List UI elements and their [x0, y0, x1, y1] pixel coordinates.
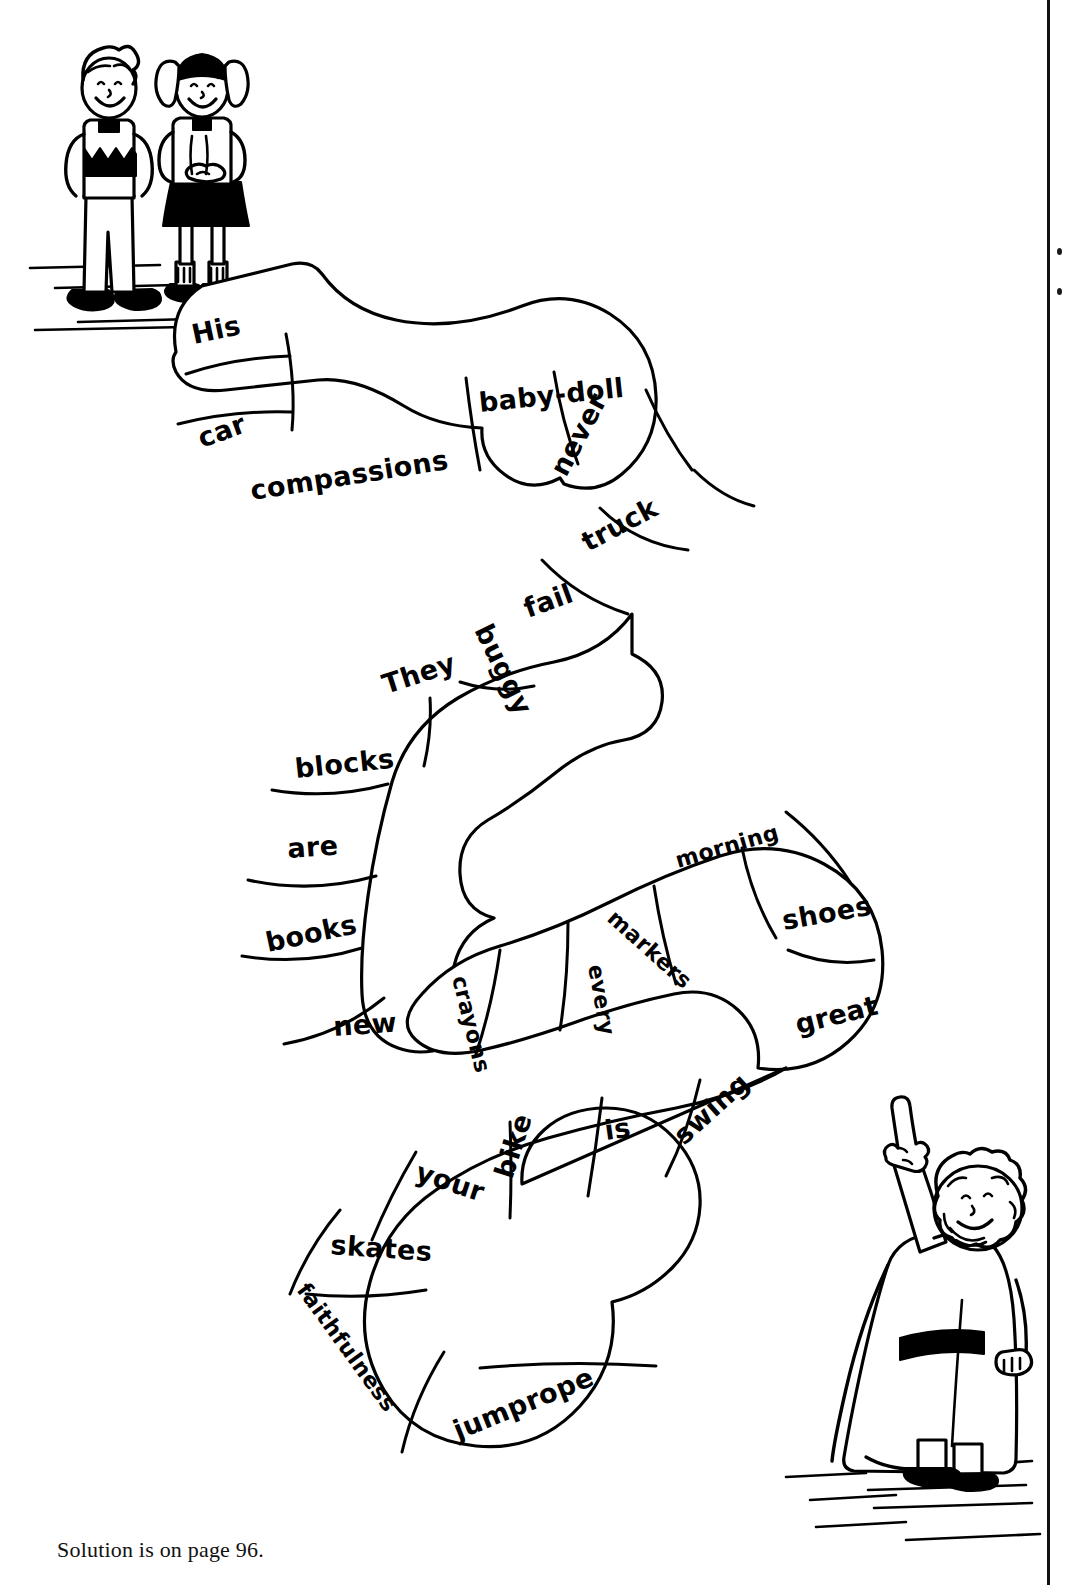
puzzle-illustration: His car compassions baby-doll never truc… — [0, 0, 1081, 1585]
prophet-illustration — [786, 1097, 1040, 1540]
word-path: His car compassions baby-doll never truc… — [173, 263, 883, 1452]
solution-caption: Solution is on page 96. — [57, 1537, 264, 1563]
page-gutter-rule — [1047, 0, 1050, 1585]
margin-dot-icon — [1057, 288, 1062, 295]
segment-word-12: books — [263, 908, 360, 958]
segment-word-10: blocks — [293, 743, 395, 784]
segment-word-3: compassions — [248, 444, 450, 506]
girl-figure — [156, 54, 249, 302]
segment-word-21: is — [603, 1112, 633, 1146]
worksheet-page: His car compassions baby-doll never truc… — [0, 0, 1081, 1585]
segment-word-6: truck — [576, 491, 663, 557]
margin-dot-icon — [1057, 248, 1062, 255]
segment-word-7: fail — [519, 577, 577, 623]
segment-word-24: skates — [330, 1229, 434, 1267]
boy-figure — [66, 46, 161, 310]
segment-word-13: new — [332, 1007, 398, 1042]
segment-word-2: car — [193, 408, 250, 454]
segment-word-9: They — [378, 647, 459, 700]
segment-word-11: are — [286, 829, 339, 863]
